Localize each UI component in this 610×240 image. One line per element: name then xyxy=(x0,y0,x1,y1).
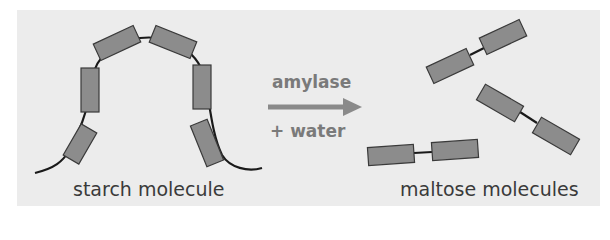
starch-units xyxy=(63,25,223,166)
maltose-molecule-1 xyxy=(426,20,526,84)
starch-label: starch molecule xyxy=(73,178,224,200)
maltose-molecule-3 xyxy=(367,139,478,165)
reaction-arrow-head xyxy=(343,98,362,116)
enzyme-label: amylase xyxy=(272,72,351,92)
maltose-molecule-2 xyxy=(476,84,579,155)
reactant-label: + water xyxy=(270,121,345,141)
maltose-label: maltose molecules xyxy=(400,178,579,200)
